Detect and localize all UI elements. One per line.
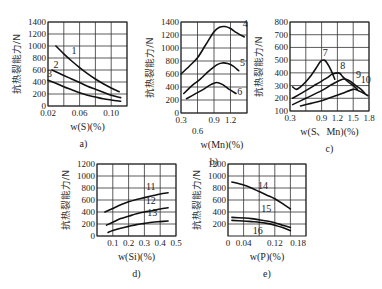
x-tick-label: 0.3 [284,113,296,123]
y-tick-label: 400 [33,77,47,87]
curve-label: 11 [146,181,156,192]
x-tick-label: 0.9 [208,115,220,125]
curve-label: 6 [237,86,242,97]
y-tick-label: 200 [213,219,227,229]
grid [48,22,127,106]
x-tick-label: 0 [226,238,231,248]
x-axis-label: w(P)(%) [250,251,284,263]
series-2: 2 [52,59,121,98]
x-tick-label: 0.6 [192,126,204,136]
curve-line [301,89,368,106]
chart-d: 0200400600800100012000.10.20.30.40.5抗热裂能… [60,159,182,280]
curve-line [106,208,168,225]
y-tick-label: 600 [33,65,47,75]
y-axis-label: 抗热裂能力/N [60,170,71,230]
y-tick-label: 1000 [77,171,96,181]
curve-line [48,80,121,101]
x-tick-label: 0.12 [267,238,283,248]
plot-frame [48,22,127,106]
chart-e: 2004006008001000120000.040.120.18抗热裂能力/N… [191,159,307,280]
x-tick-labels: 0.30.91.21.51.8 [284,113,375,123]
y-tick-label: 700 [275,30,289,40]
y-tick-label: 600 [82,195,96,205]
series-1: 1 [56,45,119,91]
y-tick-label: 1400 [28,17,47,27]
subplot-label: c) [326,143,334,155]
y-tick-label: 800 [213,183,227,193]
curve-label: 13 [147,207,157,218]
subplot-label: d) [132,268,140,280]
x-tick-label: 0.06 [72,108,88,118]
x-tick-labels: 0.020.060.10 [40,108,119,118]
y-tick-label: 200 [275,93,289,103]
x-tick-label: 0.9 [316,113,328,123]
y-tick-label: 600 [275,42,289,52]
y-axis-label: 抗热裂能力/N [191,170,202,230]
curve-label: 1 [72,45,77,56]
x-axis-label: w(S、Mn)(%) [300,126,358,138]
x-axis-label: w(Si)(%) [118,251,155,263]
y-tick-label: 1200 [161,30,180,40]
x-tick-label: 1.2 [332,113,343,123]
curve-label: 5 [240,57,245,68]
y-tick-label: 1000 [161,43,180,53]
y-tick-label: 0 [91,231,96,241]
series-6: 6 [187,82,243,98]
y-tick-label: 200 [166,95,180,105]
curve-label: 3 [47,68,52,79]
y-tick-label: 400 [213,207,227,217]
x-axis-label: w(S)(%) [70,121,104,133]
y-tick-label: 600 [166,69,180,79]
x-tick-label: 0.5 [170,238,182,248]
curve-line [56,46,119,92]
y-axis-label: 抗热裂能力/N [144,37,155,97]
y-tick-labels: 100200300400500600700800 [275,17,289,116]
x-tick-label: 0.4 [155,238,167,248]
x-tick-labels: 0.10.20.30.40.5 [107,238,182,248]
chart-c: 1002003004005006007008000.30.91.21.51.8抗… [253,17,375,155]
chart-a: 02004006008001000120014000.020.060.10抗热裂… [11,17,127,150]
chart-b: 02004006008001000120014000.30.60.91.2抗热裂… [144,17,248,168]
curve-label: 4 [243,18,248,29]
y-tick-labels: 0200400600800100012001400 [28,17,47,111]
x-tick-label: 0.10 [103,108,119,118]
y-tick-label: 400 [82,207,96,217]
y-tick-labels: 020040060080010001200 [77,159,96,241]
curve-label: 15 [261,203,271,214]
y-tick-label: 400 [166,82,180,92]
subplot-label: a) [80,138,88,150]
y-tick-labels: 20040060080010001200 [208,159,227,229]
y-tick-label: 500 [275,55,289,65]
y-tick-label: 200 [33,89,47,99]
x-tick-label: 1.2 [225,115,236,125]
curve-label: 7 [323,47,328,58]
series-16: 16 [232,220,291,235]
x-tick-label: 0.3 [175,115,187,125]
y-tick-label: 1000 [28,41,47,51]
grid [228,164,306,236]
x-axis-label: w(Mn)(%) [201,139,244,151]
y-tick-label: 200 [82,219,96,229]
y-tick-label: 800 [275,17,289,27]
y-tick-label: 800 [166,56,180,66]
x-tick-label: 0.02 [40,108,56,118]
curve-label: 2 [53,59,58,70]
series-11: 11 [105,181,168,212]
y-tick-label: 1400 [161,17,180,27]
curve-label: 8 [340,60,345,71]
x-tick-label: 0.2 [123,238,134,248]
x-tick-label: 0.1 [107,238,118,248]
x-tick-label: 0.04 [236,238,252,248]
y-tick-labels: 0200400600800100012001400 [161,17,180,118]
series-7: 7 [293,47,335,89]
x-tick-label: 0.3 [139,238,151,248]
curve-line [52,70,121,98]
y-tick-label: 300 [275,81,289,91]
x-tick-label: 1.5 [348,113,360,123]
curve-label: 12 [146,195,156,206]
subplot-label: e) [263,268,271,280]
y-tick-label: 1200 [77,159,96,169]
x-tick-labels: 00.040.120.18 [226,238,307,248]
y-tick-label: 400 [275,68,289,78]
y-tick-label: 800 [33,53,47,63]
